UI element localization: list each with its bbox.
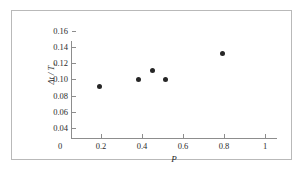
x-axis-tick-label: 0.2 bbox=[86, 142, 116, 151]
data-point bbox=[220, 51, 225, 56]
y-axis-tick bbox=[72, 63, 76, 64]
y-axis-tick bbox=[72, 79, 76, 80]
x-axis-tick-label: 0.4 bbox=[127, 142, 157, 151]
y-axis-title: Δt / Tr bbox=[46, 46, 58, 102]
x-axis-tick-label: 0 bbox=[45, 142, 75, 151]
x-axis-tick bbox=[142, 134, 143, 138]
y-axis-tick bbox=[72, 47, 76, 48]
y-axis-line bbox=[71, 41, 72, 139]
x-axis-line bbox=[71, 138, 277, 139]
y-axis-tick-label: 0.06 bbox=[38, 108, 68, 117]
x-axis-tick-label: 1 bbox=[250, 142, 280, 151]
y-axis-title-subscript: r bbox=[51, 63, 58, 66]
y-axis-tick-label: 0.16 bbox=[38, 27, 68, 36]
x-axis-tick-label: 0.6 bbox=[168, 142, 198, 151]
y-axis-tick-label: 0.04 bbox=[38, 124, 68, 133]
y-axis-tick bbox=[72, 31, 76, 32]
x-axis-title: P bbox=[71, 154, 277, 164]
data-point bbox=[97, 84, 102, 89]
plot-area bbox=[71, 41, 276, 138]
y-axis-tick bbox=[72, 128, 76, 129]
y-axis-tick bbox=[72, 112, 76, 113]
y-axis-title-text: Δt / T bbox=[46, 66, 56, 85]
chart-screenshot: 0.040.060.080.100.120.140.16 00.20.40.60… bbox=[0, 0, 304, 171]
x-axis-tick bbox=[265, 134, 266, 138]
x-axis-tick bbox=[101, 134, 102, 138]
data-point bbox=[150, 68, 155, 73]
x-axis-tick-label: 0.8 bbox=[209, 142, 239, 151]
y-axis-tick bbox=[72, 96, 76, 97]
x-axis-tick bbox=[183, 134, 184, 138]
figure-frame: 0.040.060.080.100.120.140.16 00.20.40.60… bbox=[11, 10, 292, 160]
x-axis-tick bbox=[224, 134, 225, 138]
